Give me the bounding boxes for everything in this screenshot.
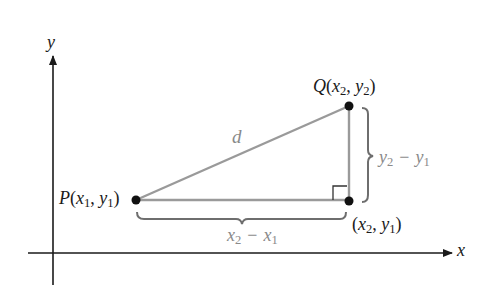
- vertical-brace: [362, 108, 373, 202]
- vertical-leg-label: y2−y1: [379, 148, 430, 169]
- distance-diagram: y x Q(x2, y2) P(x1, y1) (x2, y1) d y2−y1…: [0, 0, 488, 301]
- hypotenuse-label: d: [232, 127, 242, 146]
- point-q-label: Q(x2, y2): [313, 77, 376, 98]
- point-q-name: Q: [313, 76, 326, 96]
- hleg-a: x: [227, 225, 235, 245]
- point-q: [345, 102, 354, 111]
- horizontal-leg-label: x2−x1: [227, 226, 278, 247]
- vleg-b-sub: 1: [423, 155, 429, 169]
- q-x: x: [332, 76, 340, 96]
- vleg-minus: −: [393, 147, 415, 167]
- hleg-minus: −: [241, 225, 263, 245]
- x-axis-label: x: [457, 241, 465, 259]
- horizontal-brace: [137, 212, 346, 224]
- point-x2-y1: [345, 197, 354, 206]
- p-x: x: [76, 188, 84, 208]
- point-p-label: P(x1, y1): [59, 189, 120, 210]
- point-p-name: P: [59, 188, 70, 208]
- vleg-a: y: [379, 147, 387, 167]
- y-axis-label: y: [47, 33, 55, 51]
- right-angle-marker: [333, 186, 347, 200]
- hleg-b-sub: 1: [271, 233, 277, 247]
- point-x2-y1-label: (x2, y1): [352, 215, 402, 236]
- r-x: x: [358, 214, 366, 234]
- hypotenuse-d: [136, 106, 349, 200]
- point-p: [132, 196, 141, 205]
